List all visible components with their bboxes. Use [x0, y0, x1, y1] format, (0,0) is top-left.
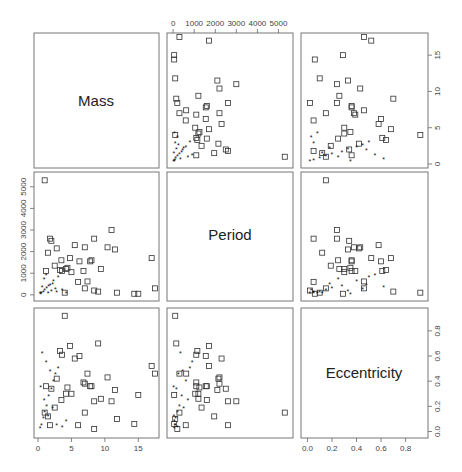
- point-star: *: [52, 378, 55, 385]
- point-square: [44, 384, 49, 389]
- tick-label: 0.4: [351, 444, 363, 453]
- point-star: *: [50, 288, 53, 295]
- point-square: [173, 313, 178, 318]
- point-square: [173, 76, 178, 81]
- point-square: [219, 122, 224, 127]
- point-square: [183, 118, 188, 123]
- point-star: *: [374, 272, 377, 279]
- point-square: [206, 38, 211, 43]
- point-square: [311, 279, 316, 284]
- point-star: *: [191, 359, 194, 366]
- point-square: [196, 93, 201, 98]
- point-square: [69, 391, 74, 396]
- point-star: *: [361, 286, 364, 293]
- point-star: *: [328, 281, 331, 288]
- point-square: [369, 256, 374, 261]
- point-square: [98, 396, 103, 401]
- point-square: [320, 250, 325, 255]
- point-square: [149, 364, 154, 369]
- point-square: [312, 57, 317, 62]
- point-star: *: [382, 284, 385, 291]
- point-star: *: [176, 409, 179, 416]
- point-square: [132, 421, 137, 426]
- point-star: *: [47, 290, 50, 297]
- point-square: [177, 111, 182, 116]
- point-square: [98, 266, 103, 271]
- tick-label: 5000: [270, 19, 288, 28]
- point-square: [203, 117, 208, 122]
- point-square: [92, 399, 97, 404]
- point-square: [234, 399, 239, 404]
- tick-label: 4000: [248, 19, 266, 28]
- point-star: *: [309, 158, 312, 165]
- point-square: [194, 112, 199, 117]
- tick-label: 0.6: [375, 444, 387, 453]
- point-square: [82, 410, 87, 415]
- tick-label: 0.8: [400, 444, 412, 453]
- point-square: [89, 384, 94, 389]
- point-star: *: [39, 384, 42, 391]
- tick-label: 0.4: [433, 375, 442, 387]
- point-star: *: [181, 368, 184, 375]
- point-square: [82, 381, 87, 386]
- point-square: [212, 151, 217, 156]
- point-square: [105, 375, 110, 380]
- point-square: [196, 391, 201, 396]
- point-star: *: [39, 291, 42, 298]
- point-square: [336, 136, 341, 141]
- point-star: *: [365, 147, 368, 154]
- tick-label: 0: [171, 19, 176, 28]
- point-square: [388, 256, 393, 261]
- point-square: [341, 291, 346, 296]
- point-square: [76, 279, 81, 284]
- point-star: *: [45, 359, 48, 366]
- tick-label: 4000: [19, 199, 28, 217]
- point-square: [112, 247, 117, 252]
- point-square: [109, 399, 114, 404]
- point-star: *: [40, 422, 43, 429]
- tick-label: 0.8: [433, 325, 442, 337]
- point-square: [184, 108, 189, 113]
- point-square: [88, 384, 93, 389]
- point-square: [72, 356, 77, 361]
- point-square: [82, 286, 87, 291]
- point-square: [358, 86, 363, 91]
- point-square: [337, 93, 342, 98]
- point-star: *: [176, 134, 179, 141]
- point-star: *: [316, 130, 319, 137]
- point-star: *: [177, 371, 180, 378]
- panel-ecc-vs-mass: [34, 308, 159, 438]
- point-square: [46, 250, 51, 255]
- point-star: *: [57, 365, 60, 372]
- point-square: [336, 258, 341, 263]
- point-square: [217, 381, 222, 386]
- point-star: *: [51, 405, 54, 412]
- point-square: [77, 354, 82, 359]
- point-star: *: [41, 350, 44, 357]
- point-square: [282, 410, 287, 415]
- point-square: [206, 343, 211, 348]
- point-square: [217, 86, 222, 91]
- point-square: [85, 279, 90, 284]
- point-square: [353, 269, 358, 274]
- point-square: [196, 396, 201, 401]
- point-square: [234, 82, 239, 87]
- point-star: *: [54, 371, 57, 378]
- point-star: *: [316, 290, 319, 297]
- point-star: *: [178, 403, 181, 410]
- point-square: [54, 246, 59, 251]
- point-star: *: [365, 282, 368, 289]
- point-star: *: [382, 156, 385, 163]
- point-square: [217, 111, 222, 116]
- point-star: *: [176, 424, 179, 431]
- point-square: [328, 263, 333, 268]
- tick-label: 0.2: [326, 444, 338, 453]
- point-star: *: [42, 415, 45, 422]
- diagonal-label-mass: Mass: [78, 92, 114, 109]
- point-star: *: [186, 397, 189, 404]
- point-square: [109, 228, 114, 233]
- point-square: [65, 385, 70, 390]
- tick-label: 2000: [19, 242, 28, 260]
- point-square: [76, 423, 81, 428]
- point-star: *: [173, 130, 176, 137]
